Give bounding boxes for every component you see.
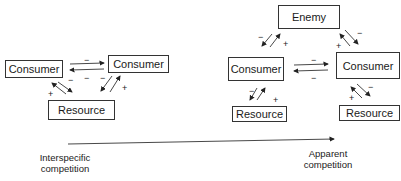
left-sign-plus-right: + — [122, 84, 127, 93]
arrow-consumer-b-to-a — [70, 69, 104, 70]
left-consumer-a-box: Consumer — [5, 60, 63, 78]
left-consumer-a-label: Consumer — [9, 63, 60, 75]
left-sign-top-minus: − — [84, 56, 89, 65]
right-resource-a-label: Resource — [236, 108, 283, 120]
right-resource-b-label: Resource — [346, 107, 393, 119]
right-sign-enemy-left-plus: + — [283, 40, 288, 49]
right-consumer-a-label: Consumer — [231, 63, 282, 75]
right-consumer-b-label: Consumer — [343, 60, 394, 72]
arrow-resource-to-consumer-b — [110, 76, 120, 92]
arrow-consumer-b-to-enemy — [340, 34, 350, 46]
right-consumer-b-box: Consumer — [336, 52, 400, 79]
right-sign-enemy-right-minus: − — [357, 29, 362, 38]
right-sign-enemy-left-minus: − — [258, 33, 263, 42]
right-sign-mid-top-minus: − — [311, 56, 316, 65]
end-label-line1: Apparent — [296, 148, 360, 159]
right-consumer-a-box: Consumer — [228, 57, 284, 81]
left-consumer-b-box: Consumer — [108, 55, 169, 73]
left-sign-mid-minus-left: − — [68, 76, 73, 85]
competition-axis-arrow — [68, 139, 334, 144]
right-sign-res-left-minus: − — [249, 87, 254, 96]
interspecific-competition-label: Interspecific competition — [32, 152, 98, 174]
start-label-line2: competition — [32, 163, 98, 174]
arrow-resource-a-to-consumer-a — [257, 88, 265, 100]
right-resource-a-box: Resource — [232, 106, 287, 122]
left-sign-plus-left: + — [48, 90, 53, 99]
right-sign-res-left-plus: + — [273, 96, 278, 105]
apparent-competition-label: Apparent competition — [296, 148, 360, 170]
end-label-line2: competition — [296, 159, 360, 170]
right-sign-res-right-minus: − — [368, 83, 373, 92]
left-sign-mid-minus-right: − — [100, 74, 105, 83]
right-sign-res-right-plus: + — [349, 94, 354, 103]
arrow-enemy-to-consumer-a — [262, 34, 272, 46]
right-sign-mid-bottom-minus: − — [311, 74, 316, 83]
left-consumer-b-label: Consumer — [113, 58, 164, 70]
right-resource-b-box: Resource — [339, 105, 400, 121]
arrow-right-consumer-b-to-a — [294, 70, 328, 71]
left-resource-box: Resource — [48, 100, 115, 120]
enemy-label: Enemy — [292, 11, 326, 23]
start-label-line1: Interspecific — [32, 152, 98, 163]
right-sign-enemy-right-plus: + — [336, 42, 341, 51]
left-sign-mid-minus-center: − — [84, 74, 89, 83]
left-resource-label: Resource — [58, 104, 105, 116]
arrow-resource-to-consumer-a — [52, 83, 66, 94]
arrow-consumer-a-to-enemy — [270, 34, 280, 47]
enemy-box: Enemy — [278, 5, 340, 29]
